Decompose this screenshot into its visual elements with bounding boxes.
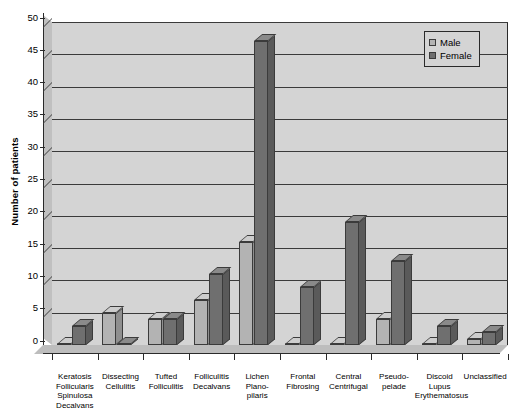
bar-face — [209, 274, 223, 345]
x-axis-tick-mark — [234, 354, 235, 360]
x-axis-label-line: Decalvans — [187, 382, 237, 392]
x-axis-label-line: Keratosis — [50, 372, 100, 382]
bar-face — [194, 300, 208, 345]
bar-male — [102, 313, 116, 345]
x-axis-label-line: Dissecting — [96, 372, 146, 382]
x-axis-category-label: DiscoidLupusErythematosus — [415, 372, 465, 401]
bar-group — [330, 22, 366, 345]
y-axis-tick-mark — [40, 50, 45, 51]
y-axis-tick-label: 50 — [4, 13, 38, 23]
bar-male — [194, 300, 208, 345]
x-axis-label-line: Frontal — [278, 372, 328, 382]
bar-face — [239, 242, 253, 345]
bar-side — [359, 216, 366, 345]
bar-female — [163, 319, 177, 345]
bar-female — [209, 274, 223, 345]
x-axis-label-line: Folliculitis — [141, 382, 191, 392]
x-axis-label-line: Lichen — [232, 372, 282, 382]
bar-face — [148, 319, 162, 345]
y-axis-tick-label: 40 — [4, 77, 38, 87]
bar-male — [57, 344, 71, 345]
bar-chart: Number of patients 05101520253035404550 … — [0, 0, 529, 413]
x-axis-label-line: pelade — [369, 382, 419, 392]
bar-male — [376, 319, 390, 345]
bar-female — [117, 344, 131, 345]
x-axis-category-label: Pseudo-pelade — [369, 372, 419, 391]
x-axis-tick-mark — [508, 354, 509, 360]
legend-label-female: Female — [440, 49, 472, 62]
y-axis-tick-mark — [40, 341, 45, 342]
plot-area: 05101520253035404550 KeratosisFollicular… — [52, 22, 508, 345]
bar-face — [467, 339, 481, 345]
bar-face — [254, 41, 268, 345]
x-axis-tick-mark — [189, 354, 190, 360]
y-axis-tick-label: 30 — [4, 142, 38, 152]
y-axis-tick-label: 10 — [4, 271, 38, 281]
y-axis-tick-mark — [40, 147, 45, 148]
bar-female — [345, 222, 359, 345]
x-axis-label-line: Fibrosing — [278, 382, 328, 392]
y-axis-tick-label: 0 — [4, 336, 38, 346]
bar-group — [422, 22, 458, 345]
bar-group — [239, 22, 275, 345]
y-axis-tick-mark — [40, 82, 45, 83]
x-axis-tick-mark — [52, 354, 53, 360]
x-axis-line — [43, 353, 500, 354]
legend: Male Female — [424, 31, 480, 67]
x-axis-label-line: Folliculitis — [187, 372, 237, 382]
y-axis-tick-label: 25 — [4, 174, 38, 184]
x-axis-tick-mark — [98, 354, 99, 360]
bar-male — [422, 344, 436, 345]
x-axis-label-line: pilaris — [232, 391, 282, 401]
x-axis-label-line: Centrifugal — [324, 382, 374, 392]
bar-male — [467, 339, 481, 345]
x-axis-label-line: Lupus — [415, 382, 465, 392]
bar-side — [268, 36, 275, 345]
bar-group — [376, 22, 412, 345]
bar-face — [72, 326, 86, 345]
bar-face — [437, 326, 451, 345]
legend-swatch-male-icon — [429, 39, 436, 46]
bar-male — [148, 319, 162, 345]
x-axis-label-line: Unclassified — [460, 372, 510, 382]
bar-male — [239, 242, 253, 345]
bar-female — [300, 287, 314, 345]
y-axis-tick-label: 20 — [4, 207, 38, 217]
bar-face — [300, 287, 314, 345]
bar-group — [57, 22, 93, 345]
bar-group — [148, 22, 184, 345]
bars-layer — [52, 22, 508, 345]
x-axis-category-label: Unclassified — [460, 372, 510, 382]
y-axis-tick-mark — [40, 308, 45, 309]
bar-male — [330, 344, 344, 345]
x-axis-label-line: Spinulosa — [50, 391, 100, 401]
x-axis-category-label: CentralCentrifugal — [324, 372, 374, 391]
bar-female — [482, 332, 496, 345]
y-axis-tick-label: 15 — [4, 239, 38, 249]
y-axis-tick-mark — [40, 244, 45, 245]
x-axis-category-label: DissectingCellulitis — [96, 372, 146, 391]
legend-item-female: Female — [429, 49, 472, 62]
bar-side — [405, 255, 412, 345]
x-axis-label-line: Plano- — [232, 382, 282, 392]
bar-face — [482, 332, 496, 345]
x-axis-label-line: Central — [324, 372, 374, 382]
x-axis-tick-mark — [417, 354, 418, 360]
x-axis-category-label: KeratosisFollicularisSpinulosaDecalvans — [50, 372, 100, 410]
y-axis-tick-label: 5 — [4, 303, 38, 313]
y-axis-tick-mark — [40, 18, 45, 19]
y-axis-tick-mark — [40, 211, 45, 212]
bar-face — [163, 319, 177, 345]
bar-group — [285, 22, 321, 345]
x-axis-category-label: FrontalFibrosing — [278, 372, 328, 391]
x-axis-label-line: Erythematosus — [415, 391, 465, 401]
x-axis-tick-mark — [462, 354, 463, 360]
x-axis-tick-mark — [371, 354, 372, 360]
y-axis-tick-mark — [40, 276, 45, 277]
bar-group — [194, 22, 230, 345]
bar-female — [72, 326, 86, 345]
x-axis-label-line: Decalvans — [50, 401, 100, 411]
x-axis-label-line: Cellulitis — [96, 382, 146, 392]
x-axis-category-label: FolliculitisDecalvans — [187, 372, 237, 391]
bar-male — [285, 344, 299, 345]
